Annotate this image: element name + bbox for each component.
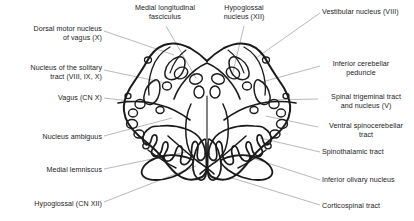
ventral-medulla-bulge-left bbox=[142, 155, 194, 180]
spinal-trigeminal-nucleus-right bbox=[269, 100, 279, 109]
label-nucleus-of-the-solitary-tract: Nucleus of the solitary tract (VIII, IX,… bbox=[4, 64, 102, 81]
label-corticospinal-tract: Corticospinal tract bbox=[322, 202, 412, 211]
nucleus-ambiguus-right bbox=[250, 107, 258, 114]
label-nucleus-ambiguus: Nucleus ambiguus bbox=[18, 133, 102, 142]
label-spinal-trigeminal-tract-and-nucleus: Spinal trigeminal tract and nucleus (V) bbox=[320, 93, 412, 110]
spinal-trigeminal-tract-right bbox=[277, 109, 286, 117]
spinal-trigeminal-tract-left bbox=[129, 109, 138, 117]
medial-longitudinal-fasciculus-left bbox=[194, 86, 204, 98]
label-inferior-olivary-nucleus: Inferior olivary nucleus bbox=[322, 176, 414, 185]
label-medial-lemniscus: Medial lemniscus bbox=[20, 166, 102, 175]
label-medial-longitudinal-fasciculus: Medial longitudinal fasciculus bbox=[124, 4, 206, 21]
inferior-cerebellar-peduncle-right bbox=[254, 80, 270, 105]
spinal-trigeminal-nucleus-left bbox=[135, 100, 145, 109]
solitary-tract-nucleus-left bbox=[163, 82, 172, 90]
label-inferior-cerebellar-peduncle: Inferior cerebellar peduncle bbox=[322, 60, 400, 77]
medulla-cross-section-figure: Dorsal motor nucleus of vagus (X)Medial … bbox=[0, 0, 414, 221]
medial-longitudinal-fasciculus-right bbox=[210, 86, 220, 98]
label-vagus-nerve: Vagus (CN X) bbox=[42, 94, 102, 103]
label-hypoglossal-nucleus: Hypoglossal nucleus (XII) bbox=[212, 4, 276, 21]
ventral-medulla-bulge-right bbox=[221, 155, 273, 180]
label-dorsal-motor-nucleus-of-vagus: Dorsal motor nucleus of vagus (X) bbox=[6, 25, 102, 42]
inferior-cerebellar-peduncle-left bbox=[144, 80, 160, 105]
label-ventral-spinocerebellar-tract: Ventral spinocerebellar tract bbox=[320, 122, 412, 139]
label-vestibular-nucleus: Vestibular nucleus (VIII) bbox=[322, 8, 412, 17]
nucleus-ambiguus-left bbox=[156, 107, 164, 114]
label-spinothalamic-tract: Spinothalamic tract bbox=[322, 148, 412, 157]
label-hypoglossal-nerve: Hypoglossal (CN XII) bbox=[8, 200, 102, 209]
solitary-tract-nucleus-right bbox=[243, 82, 252, 90]
